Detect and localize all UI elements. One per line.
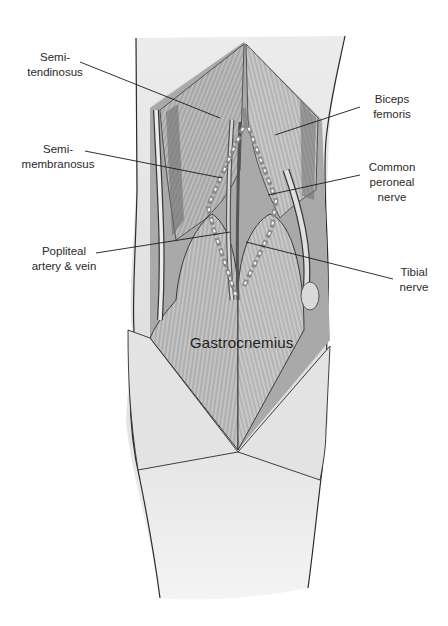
label-gastrocnemius: Gastrocnemius <box>190 334 293 351</box>
label-semimembranosus: Semi- membranosus <box>20 142 96 172</box>
label-semitendinosus: Semi- tendinosus <box>26 50 84 80</box>
sciatic-nerve-dashed <box>244 108 246 128</box>
fibular-head <box>301 282 319 310</box>
label-common-peroneal-nerve: Common peroneal nerve <box>362 160 422 205</box>
label-biceps-femoris: Biceps femoris <box>362 92 422 122</box>
label-popliteal-artery-vein: Popliteal artery & vein <box>28 244 100 274</box>
anatomy-diagram: Semi- tendinosus Semi- membranosus Popli… <box>0 0 448 626</box>
label-tibial-nerve: Tibial nerve <box>392 265 436 295</box>
